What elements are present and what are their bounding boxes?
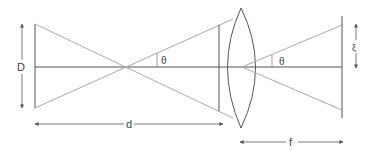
diagram-canvas: D d f θ θ ξ	[0, 0, 374, 151]
label-object-distance: d	[126, 118, 132, 130]
ray-top-left	[35, 24, 233, 118]
optics-diagram: D d f θ θ ξ	[0, 0, 374, 151]
label-image-offset: ξ	[352, 43, 356, 53]
ray-bottom-left	[35, 19, 233, 108]
label-focal-length: f	[289, 136, 293, 148]
ray-bottom-right	[242, 67, 342, 110]
ray-top-right	[242, 25, 342, 67]
label-object-size: D	[17, 61, 25, 73]
lens	[228, 8, 256, 128]
label-angle-left: θ	[161, 55, 167, 66]
label-angle-right: θ	[279, 56, 285, 67]
